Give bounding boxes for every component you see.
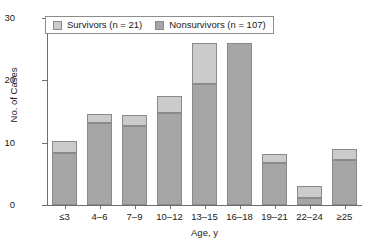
bar-segment-nonsurvivors[interactable] [262,163,287,205]
x-tick-mark [345,205,346,209]
bar-segment-survivors[interactable] [122,115,147,126]
bar-segment-nonsurvivors[interactable] [332,160,357,205]
y-tick-mark [42,143,47,144]
legend-swatch-icon [53,21,62,30]
bar-segment-nonsurvivors[interactable] [157,113,182,205]
x-tick-label: 22–24 [292,211,327,222]
bar-segment-survivors[interactable] [297,186,322,197]
bar-segment-survivors[interactable] [157,96,182,113]
bar-group[interactable] [227,18,252,205]
x-tick-label: ≥25 [327,211,362,222]
chart-legend: Survivors (n = 21)Nonsurvivors (n = 107) [45,16,274,34]
bar-segment-nonsurvivors[interactable] [122,126,147,205]
bar-segment-survivors[interactable] [52,141,77,153]
bar-chart: 0102030 No. of Cases ≤34–67–910–1213–151… [0,0,373,244]
legend-label: Nonsurvivors (n = 107) [169,20,265,30]
bar-segment-nonsurvivors[interactable] [52,153,77,205]
x-tick-label: ≤3 [47,211,82,222]
x-tick-label: 7–9 [117,211,152,222]
x-axis-title: Age, y [47,227,362,238]
bar-segment-survivors[interactable] [332,149,357,160]
legend-item: Nonsurvivors (n = 107) [155,20,265,30]
x-tick-mark [205,205,206,209]
x-tick-mark [170,205,171,209]
x-tick-mark [135,205,136,209]
bar-segment-survivors[interactable] [262,154,287,163]
bar-group[interactable] [122,18,147,205]
x-tick-mark [65,205,66,209]
x-tick-mark [275,205,276,209]
x-tick-mark [240,205,241,209]
x-tick-label: 10–12 [152,211,187,222]
y-axis-line [47,18,48,205]
bar-group[interactable] [332,18,357,205]
x-tick-mark [310,205,311,209]
bar-group[interactable] [297,18,322,205]
bar-segment-nonsurvivors[interactable] [87,123,112,205]
y-tick: 10 [0,143,47,144]
bar-group[interactable] [87,18,112,205]
x-tick-label: 19–21 [257,211,292,222]
legend-item: Survivors (n = 21) [53,20,142,30]
bar-segment-survivors[interactable] [192,43,217,84]
bar-segment-nonsurvivors[interactable] [227,43,252,205]
bar-group[interactable] [157,18,182,205]
y-tick-mark [42,80,47,81]
y-tick-label: 0 [0,200,15,210]
x-tick-label: 13–15 [187,211,222,222]
legend-swatch-icon [155,21,164,30]
x-tick-label: 4–6 [82,211,117,222]
x-tick-label: 16–18 [222,211,257,222]
bar-group[interactable] [192,18,217,205]
y-tick: 30 [0,18,47,19]
bar-segment-survivors[interactable] [87,114,112,123]
y-tick: 0 [0,205,47,206]
plot-area [0,0,373,244]
bar-group[interactable] [52,18,77,205]
bar-segment-nonsurvivors[interactable] [297,198,322,205]
x-tick-mark [100,205,101,209]
y-axis-title: No. of Cases [9,50,19,140]
bar-segment-nonsurvivors[interactable] [192,84,217,205]
y-tick-label: 30 [0,13,15,23]
legend-label: Survivors (n = 21) [67,20,142,30]
bar-group[interactable] [262,18,287,205]
